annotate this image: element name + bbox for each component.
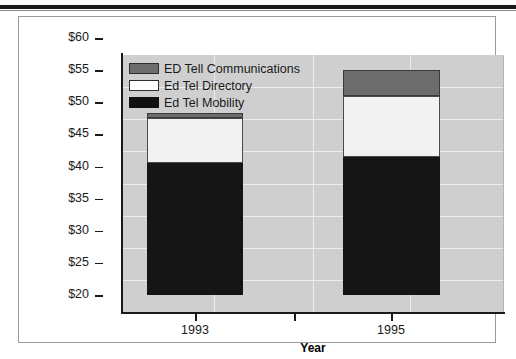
legend-label-directory: Ed Tel Directory: [164, 79, 252, 93]
chart-legend: ED Tell Communications Ed Tel Directory …: [129, 61, 300, 110]
y-tick-mark: [95, 70, 103, 72]
chart-figure-frame: Income from Continuing Operations (milli…: [18, 16, 496, 343]
y-tick-label: $35: [31, 191, 89, 205]
y-tick-label: $25: [31, 255, 89, 269]
y-tick-label: $45: [31, 126, 89, 140]
x-axis-title: Year: [122, 341, 504, 355]
y-tick-mark: [95, 38, 103, 40]
y-tick-label: $55: [31, 62, 89, 76]
vertical-gridline: [313, 55, 314, 312]
y-tick-label: $40: [31, 159, 89, 173]
legend-swatch-mobility-icon: [129, 97, 159, 108]
y-tick-label: $60: [31, 30, 89, 44]
y-tick-mark: [95, 102, 103, 104]
bar-segment-mobility: [343, 157, 440, 295]
top-divider-hairline: [0, 10, 516, 11]
y-axis-line: [121, 53, 123, 314]
bar-segment-directory: [343, 96, 440, 157]
legend-swatch-directory-icon: [129, 80, 159, 91]
x-axis-line: [121, 312, 505, 314]
y-tick-mark: [95, 134, 103, 136]
bar-segment-communications: [343, 70, 440, 96]
legend-label-communications: ED Tell Communications: [164, 62, 300, 76]
x-tick-mark: [195, 313, 197, 321]
y-tick-label: $50: [31, 94, 89, 108]
legend-item-communications: ED Tell Communications: [129, 61, 300, 76]
x-tick-label: 1995: [351, 323, 431, 337]
y-tick-mark: [95, 199, 103, 201]
y-tick-mark: [95, 263, 103, 265]
bar-segment-communications: [147, 113, 243, 118]
y-tick-label: $30: [31, 223, 89, 237]
x-tick-mark: [391, 313, 393, 321]
y-tick-label: $20: [31, 287, 89, 301]
x-tick-label: 1993: [155, 323, 235, 337]
y-tick-mark: [95, 231, 103, 233]
top-divider-rule: [0, 5, 516, 9]
bar-segment-mobility: [147, 163, 243, 295]
y-tick-mark: [95, 167, 103, 169]
legend-label-mobility: Ed Tel Mobility: [164, 96, 244, 110]
legend-item-directory: Ed Tel Directory: [129, 78, 300, 93]
y-tick-mark: [95, 295, 103, 297]
legend-swatch-communications-icon: [129, 63, 159, 74]
legend-item-mobility: Ed Tel Mobility: [129, 95, 300, 110]
bar-segment-directory: [147, 118, 243, 164]
x-tick-mark: [294, 313, 296, 321]
